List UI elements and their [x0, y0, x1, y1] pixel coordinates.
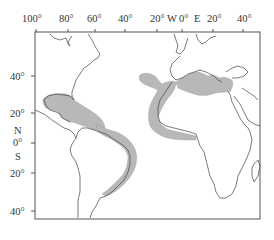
latitude-labels: 40° 20° N 0° S 20° 40°	[10, 71, 25, 217]
coastline-africa	[158, 82, 252, 198]
coastline-europe	[170, 34, 248, 82]
lon-label-0: 0°	[179, 13, 188, 24]
lon-label-20w: 20°	[150, 13, 165, 24]
lat-label-south: S	[15, 151, 21, 162]
latitude-ticks	[31, 76, 35, 211]
map-frame	[35, 32, 260, 219]
lat-label-0: 0°	[13, 137, 22, 148]
map-canvas: 100° 80° 60° 40° 20° W 0° E 20° 40° 40° …	[0, 0, 274, 240]
longitude-labels: 100° 80° 60° 40° 20° W 0° E 20° 40°	[22, 13, 252, 24]
lon-label-20e: 20°	[207, 13, 222, 24]
coastline-madagascar	[252, 160, 260, 182]
lat-label-20s: 20°	[10, 168, 25, 179]
lat-label-40n: 40°	[10, 71, 25, 82]
shaded-distribution	[43, 72, 233, 196]
lat-label-40s: 40°	[10, 206, 25, 217]
lon-label-east: E	[194, 13, 200, 24]
coastline-north-america	[50, 34, 100, 100]
lon-label-west: W	[167, 13, 177, 24]
lon-label-80w: 80°	[59, 13, 74, 24]
coastline-arabia	[234, 88, 260, 126]
zone-mediterranean	[176, 72, 233, 96]
lon-label-60w: 60°	[87, 13, 102, 24]
coastlines	[35, 34, 260, 218]
distribution-map: 100° 80° 60° 40° 20° W 0° E 20° 40° 40° …	[0, 0, 274, 240]
lat-label-20n: 20°	[10, 108, 25, 119]
lon-label-100w: 100°	[22, 13, 42, 24]
zone-south-america-coast	[96, 124, 137, 196]
lon-label-40w: 40°	[118, 13, 133, 24]
lat-label-north: N	[14, 125, 22, 136]
lon-label-40e: 40°	[237, 13, 252, 24]
